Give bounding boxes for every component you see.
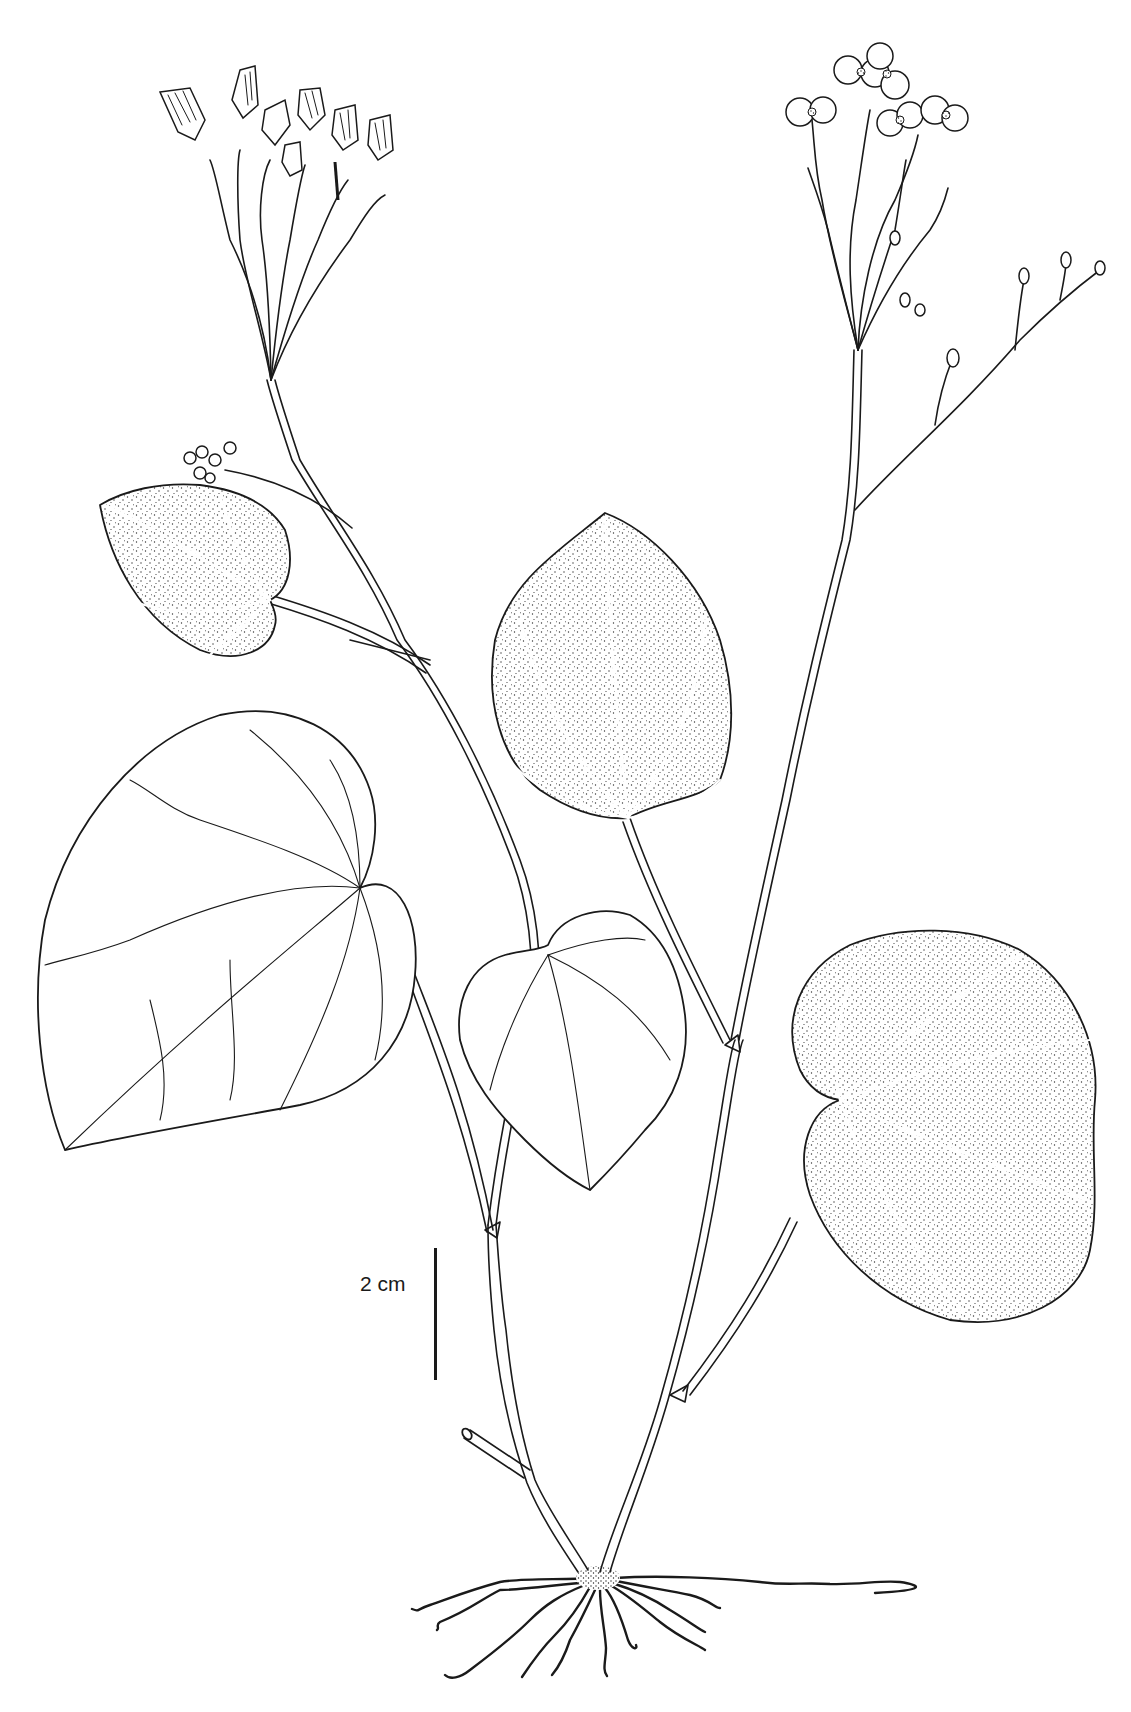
pistillate-flower [298, 88, 325, 130]
leaf-small-upper-left [100, 484, 290, 656]
right-inflorescence [786, 43, 968, 350]
pistillate-flower [282, 142, 302, 176]
root-system [412, 1566, 916, 1678]
scale-bar-label: 2 cm [360, 1272, 406, 1296]
left-inflorescence [160, 66, 393, 380]
pistillate-flower [160, 88, 205, 140]
leaf-middle [459, 911, 686, 1190]
pistillate-flower [232, 66, 258, 118]
right-branch-buds [855, 252, 1105, 510]
leaf-right [792, 931, 1095, 1322]
pistillate-flower [368, 115, 393, 160]
staminate-flower [921, 96, 968, 131]
staminate-flower [877, 102, 923, 136]
leaf-upper-center [492, 513, 731, 818]
staminate-flower [786, 97, 836, 126]
pistillate-flower [262, 100, 290, 145]
scale-bar [434, 1248, 437, 1380]
leaf-large-left [38, 711, 416, 1150]
botanical-illustration [0, 0, 1131, 1712]
pistillate-flower [332, 105, 358, 150]
